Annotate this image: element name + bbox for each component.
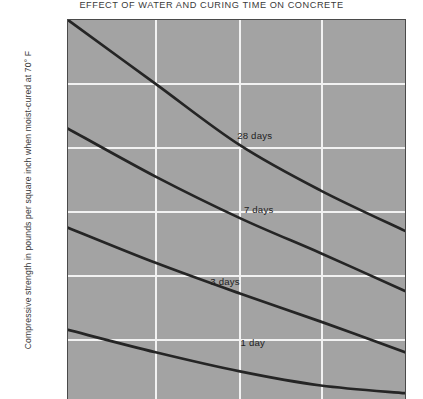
- curve-28-days: [68, 20, 405, 231]
- series-label-3-days: 3 days: [210, 276, 239, 287]
- series-label-1-day: 1 day: [241, 337, 265, 348]
- chart-figure: EFFECT OF WATER AND CURING TIME ON CONCR…: [0, 0, 423, 399]
- curve-group: [68, 20, 405, 399]
- series-label-7-days: 7 days: [244, 204, 273, 215]
- plot-area: 28 days 7 days 3 days 1 day: [68, 20, 405, 399]
- curve-3-days: [68, 228, 405, 353]
- curve-7-days-main: [68, 129, 405, 291]
- y-axis-label: Compressive strength in pounds per squar…: [23, 20, 33, 380]
- chart-title: EFFECT OF WATER AND CURING TIME ON CONCR…: [0, 0, 423, 10]
- series-label-28-days: 28 days: [237, 130, 272, 141]
- curve-1-day: [68, 330, 405, 393]
